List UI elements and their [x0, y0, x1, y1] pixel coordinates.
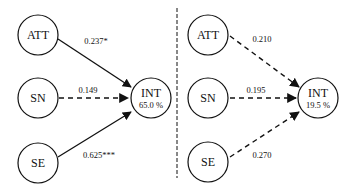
node-att-label: ATT: [197, 28, 220, 42]
node-se-label: SE: [31, 156, 45, 170]
left-panel: 0.237* 0.149 0.625*** ATT SN SE INT 65.0…: [18, 15, 171, 183]
node-int-label: INT: [308, 86, 329, 100]
node-se-label: SE: [201, 155, 215, 169]
node-sn-label: SN: [200, 91, 216, 105]
coef-se: 0.625***: [83, 150, 115, 160]
coef-att: 0.237*: [84, 36, 107, 46]
coef-att: 0.210: [252, 34, 271, 44]
node-int-label: INT: [141, 86, 162, 100]
coef-se: 0.270: [252, 150, 271, 160]
node-sn-label: SN: [30, 91, 46, 105]
node-int-value: 19.5 %: [306, 100, 330, 110]
coef-sn: 0.149: [78, 85, 97, 95]
path-diagram: 0.237* 0.149 0.625*** ATT SN SE INT 65.0…: [0, 0, 353, 194]
node-int-value: 65.0 %: [139, 100, 163, 110]
edge-att-int: [58, 39, 131, 87]
coef-sn: 0.195: [246, 85, 265, 95]
node-att-label: ATT: [27, 28, 50, 42]
right-panel: 0.210 0.195 0.270 ATT SN SE INT 19.5 %: [188, 15, 338, 182]
